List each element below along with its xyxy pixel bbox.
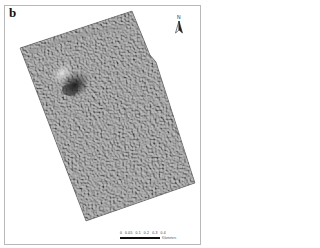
scale-segment (151, 237, 160, 239)
scale-tick: 0 (120, 231, 122, 235)
scale-segment (126, 237, 133, 239)
scale-bar-segments (120, 237, 160, 239)
north-arrow: N (174, 14, 188, 40)
scale-segment (142, 237, 151, 239)
north-arrow-icon (174, 14, 188, 40)
scale-tick: 0.1 (136, 231, 141, 235)
scale-unit: Kilometers (162, 236, 176, 240)
scale-segment (133, 237, 142, 239)
scale-tick: 0.2 (144, 231, 149, 235)
scale-bar: 00.050.10.20.30.4 Kilometers (120, 231, 180, 241)
scale-tick-labels: 00.050.10.20.30.4 (120, 231, 169, 235)
scale-tick: 0.3 (152, 231, 157, 235)
scale-tick: 0.4 (160, 231, 165, 235)
scale-tick: 0.05 (125, 231, 132, 235)
